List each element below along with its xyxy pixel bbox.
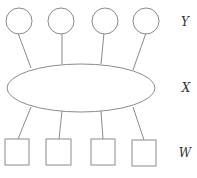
edge-x-w4 [133, 107, 144, 140]
layer-y-nodes [6, 8, 159, 34]
node-y4-circle [133, 8, 159, 34]
edge-x-w1 [18, 107, 31, 139]
edge-y1-x [18, 33, 31, 68]
edge-y3-x [101, 33, 104, 64]
node-w1-square [5, 139, 29, 165]
layered-diagram: Y X W [0, 0, 197, 178]
label-y: Y [181, 15, 190, 29]
node-x-ellipse [7, 64, 155, 112]
edge-x-w3 [101, 111, 103, 139]
label-x: X [181, 81, 191, 95]
layer-w-nodes [5, 139, 156, 166]
node-y3-circle [92, 8, 118, 34]
node-w4-square [132, 140, 156, 166]
node-w2-square [46, 139, 71, 165]
edge-y4-x [133, 33, 146, 70]
node-y2-circle [48, 8, 74, 34]
node-y1-circle [6, 8, 32, 34]
edge-x-w2 [59, 111, 62, 139]
label-w: W [179, 146, 193, 160]
node-w3-square [91, 139, 115, 165]
